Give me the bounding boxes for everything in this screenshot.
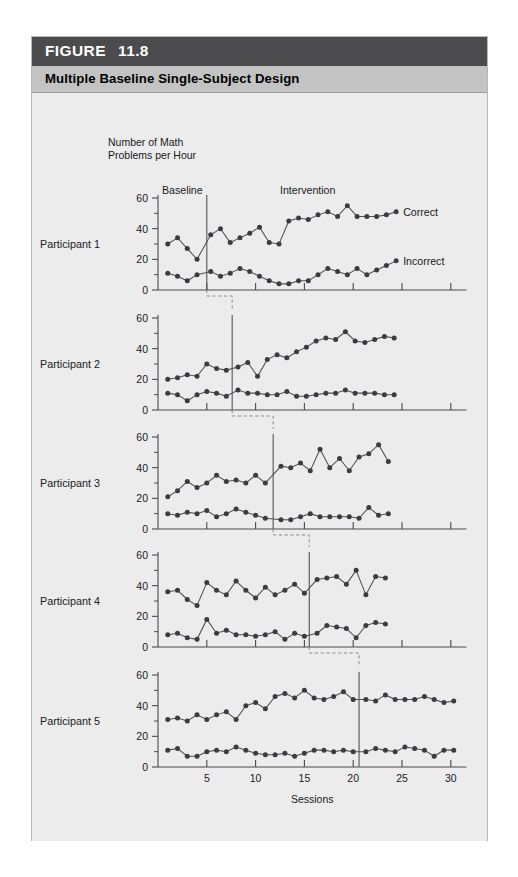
data-point-incorrect [374,268,379,273]
data-point-correct [236,365,241,370]
data-point-correct [351,697,356,702]
figure-card: FIGURE11.8 Multiple Baseline Single-Subj… [31,36,488,841]
legend-label-incorrect: Incorrect [403,255,444,267]
y-tick-label: 0 [142,641,148,653]
y-tick-label: 0 [142,523,148,535]
y-tick-label: 0 [142,761,148,773]
data-point-correct [298,461,303,466]
x-axis-title: Sessions [291,793,334,805]
data-point-correct [204,362,209,367]
data-point-incorrect [175,274,180,279]
data-point-correct [393,697,398,702]
data-point-correct [185,719,190,724]
data-point-incorrect [234,745,239,750]
data-point-correct [344,582,349,587]
data-point-correct [366,451,371,456]
data-point-correct [224,479,229,484]
y-tick-label: 60 [136,549,148,561]
data-point-correct [273,592,278,597]
legend-label-correct: Correct [403,206,438,218]
data-point-incorrect [451,748,456,753]
data-point-incorrect [316,272,321,277]
data-point-correct [224,709,229,714]
data-point-correct [394,209,399,214]
data-point-correct [195,374,200,379]
data-point-incorrect [366,505,371,510]
data-point-incorrect [292,754,297,759]
data-point-incorrect [204,617,209,622]
data-point-correct [257,225,262,230]
data-point-correct [214,473,219,478]
data-point-incorrect [363,623,368,628]
data-point-incorrect [273,752,278,757]
data-point-correct [195,257,200,262]
data-point-correct [247,231,252,236]
data-point-incorrect [185,398,190,403]
data-point-correct [324,576,329,581]
data-point-incorrect [236,388,241,393]
data-point-incorrect [214,631,219,636]
data-point-correct [237,235,242,240]
data-point-correct [373,574,378,579]
data-point-incorrect [247,269,252,274]
data-point-incorrect [165,391,170,396]
data-point-correct [331,694,336,699]
y-tick-label: 60 [136,312,148,324]
panel-5: Participant 5020406051015202530 [40,669,466,784]
data-point-correct [372,337,377,342]
data-point-correct [175,235,180,240]
data-point-incorrect [185,635,190,640]
data-point-correct [273,694,278,699]
data-point-incorrect [393,749,398,754]
data-point-incorrect [394,258,399,263]
data-point-correct [441,700,446,705]
data-point-incorrect [214,391,219,396]
data-point-correct [214,588,219,593]
data-point-correct [284,355,289,360]
series-line-incorrect [168,747,454,756]
data-point-correct [316,212,321,217]
data-point-correct [224,592,229,597]
data-point-incorrect [383,748,388,753]
data-point-incorrect [354,635,359,640]
data-point-incorrect [288,517,293,522]
data-point-incorrect [234,507,239,512]
data-point-incorrect [218,274,223,279]
panel-label-1: Participant 1 [40,238,100,250]
data-point-correct [185,479,190,484]
data-point-incorrect [306,278,311,283]
data-point-correct [265,357,270,362]
data-point-correct [224,368,229,373]
data-point-incorrect [412,746,417,751]
data-point-incorrect [318,514,323,519]
data-point-correct [296,215,301,220]
data-point-incorrect [364,272,369,277]
data-point-correct [355,214,360,219]
data-point-incorrect [296,278,301,283]
data-point-incorrect [204,508,209,513]
y-tick-label: 0 [142,284,148,296]
panel-4: Participant 40204060 [40,549,466,667]
data-point-correct [364,214,369,219]
data-point-correct [218,226,223,231]
data-point-correct [263,706,268,711]
data-point-incorrect [224,628,229,633]
figure-number: 11.8 [118,42,149,59]
data-point-correct [263,481,268,486]
data-point-correct [185,597,190,602]
data-point-incorrect [263,516,268,521]
data-point-correct [325,209,330,214]
data-point-correct [392,335,397,340]
data-point-correct [357,454,362,459]
data-point-correct [323,335,328,340]
series-line-correct [168,206,396,260]
data-point-correct [315,577,320,582]
x-tick-label: 30 [445,772,457,784]
data-point-incorrect [195,392,200,397]
data-point-incorrect [195,754,200,759]
data-point-correct [234,717,239,722]
data-point-correct [185,246,190,251]
data-point-correct [373,699,378,704]
data-point-correct [384,212,389,217]
y-tick-label: 60 [136,192,148,204]
